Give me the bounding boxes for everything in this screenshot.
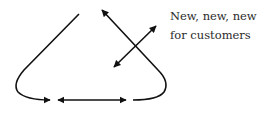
right-curve-arrow bbox=[102, 10, 166, 100]
left-curve-arrow bbox=[16, 14, 79, 100]
diagram-canvas: New, new, new for customers bbox=[0, 0, 271, 114]
label-line-1: New, new, new bbox=[170, 7, 257, 25]
label-line-2: for customers bbox=[170, 26, 251, 44]
